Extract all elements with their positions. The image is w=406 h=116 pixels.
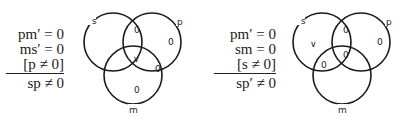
region-spm: ∨	[133, 54, 140, 64]
label-s: s	[301, 16, 306, 26]
region-p-only: 0	[377, 37, 383, 47]
region-m-only: 0	[134, 85, 140, 95]
venn-diagram-2	[293, 13, 390, 104]
region-spm: 0	[343, 50, 349, 60]
label-p: p	[177, 17, 183, 27]
region-s-only: ∨	[310, 39, 317, 49]
region-p-only: 0	[168, 37, 174, 47]
circle-m	[313, 46, 371, 104]
region-sp: 0	[343, 25, 349, 35]
label-m: m	[129, 105, 138, 115]
label-m: m	[338, 105, 347, 115]
label-s: s	[92, 16, 97, 26]
region-pm: 0	[155, 64, 161, 74]
region-sm: 0	[321, 60, 327, 70]
label-p: p	[386, 17, 392, 27]
venn-diagrams: s p m 0 0 ∨ 0 0 s p m ∨ 0 0 0 0	[0, 0, 406, 116]
region-sp: 0	[134, 25, 140, 35]
